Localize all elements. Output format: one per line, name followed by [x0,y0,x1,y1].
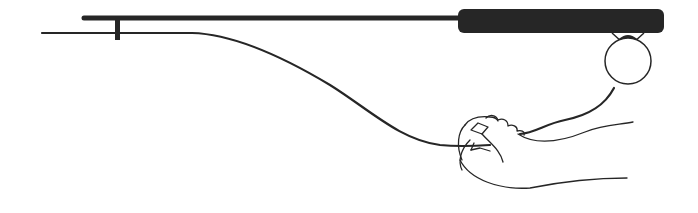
line-guide [115,19,120,40]
figure: Fishing rod with reel held, line running… [0,0,698,213]
fishing-line [42,33,614,146]
reel-circle [605,38,651,84]
rod-handle [458,9,664,33]
